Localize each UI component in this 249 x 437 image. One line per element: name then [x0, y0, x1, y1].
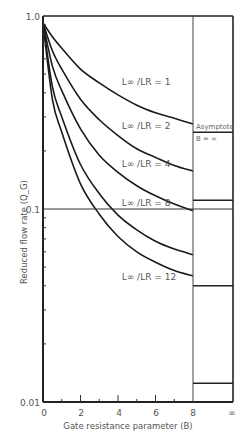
curve-label-1: L∞ /LR = 1: [122, 77, 171, 87]
curve-series-4: [43, 23, 193, 255]
curve-series-1: [43, 23, 193, 124]
asymptote-label: Asymptote: [196, 123, 234, 131]
x-tick-label-0: 0: [41, 408, 47, 418]
curve-labels-group: L∞ /LR = 1L∞ /LR = 2L∞ /LR = 4L∞ /LR = 8…: [122, 77, 176, 282]
curve-label-2: L∞ /LR = 2: [122, 121, 171, 131]
x-axis-title: Gate resistance parameter (B): [63, 421, 192, 431]
asymptote-lines-group: [193, 132, 233, 383]
chart-root: L∞ /LR = 1L∞ /LR = 2L∞ /LR = 4L∞ /LR = 8…: [0, 0, 249, 437]
curve-label-3: L∞ /LR = 4: [122, 159, 171, 169]
y-tick-label-1: 1.0: [26, 12, 41, 22]
x-ticks-group: [62, 395, 175, 402]
asymptote-b-infinity-label: B = ∞: [196, 135, 217, 143]
y-tick-label-0-01: 0.01: [20, 398, 40, 408]
curves-group: [43, 23, 193, 276]
x-tick-label-2: 2: [78, 408, 84, 418]
x-tick-label-4: 4: [116, 408, 122, 418]
y-axis-title: Reduced flow rate (Q_G): [19, 180, 29, 284]
x-tick-label-infinity: ∞: [228, 408, 236, 418]
curve-label-5: L∞ /LR = 12: [122, 272, 176, 282]
curve-series-5: [43, 23, 193, 276]
x-tick-label-6: 6: [153, 408, 159, 418]
x-tick-label-8: 8: [190, 408, 196, 418]
curve-label-4: L∞ /LR = 8: [122, 198, 171, 208]
